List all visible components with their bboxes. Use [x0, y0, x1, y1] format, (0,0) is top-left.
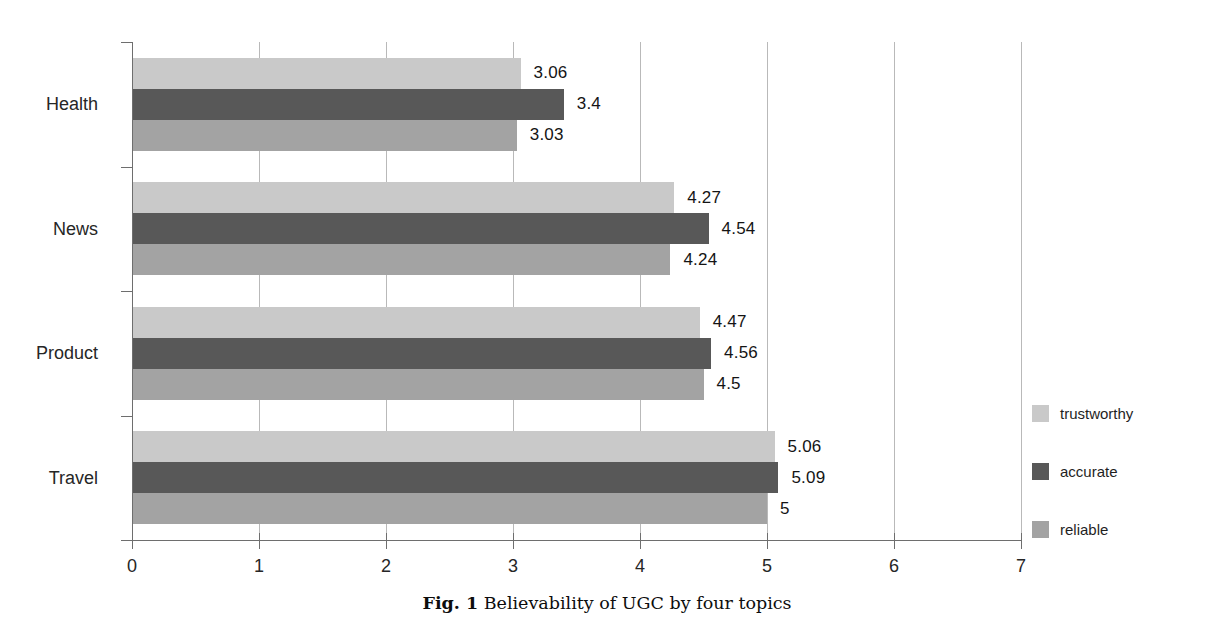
bar-row: 3.06	[132, 58, 1021, 89]
plot-area: Health3.063.43.03News4.274.544.24Product…	[132, 42, 1021, 540]
legend-item-trustworthy[interactable]: trustworthy	[1032, 404, 1207, 422]
bar-news-accurate[interactable]	[132, 213, 709, 244]
x-axis-tick-7	[1021, 533, 1022, 549]
bar-news-reliable[interactable]	[132, 244, 670, 275]
bar-row: 4.54	[132, 213, 1021, 244]
category-label-news: News	[53, 218, 98, 239]
bar-value-news-accurate: 4.54	[722, 219, 756, 239]
bar-row: 3.4	[132, 89, 1021, 120]
bar-travel-trustworthy[interactable]	[132, 431, 775, 462]
x-axis-label-3: 3	[508, 556, 518, 577]
legend-label-trustworthy: trustworthy	[1060, 405, 1133, 422]
bar-row: 4.27	[132, 182, 1021, 213]
x-axis-tick-5	[767, 533, 768, 549]
bar-group-product: Product4.474.564.5	[132, 307, 1021, 400]
bar-travel-reliable[interactable]	[132, 493, 767, 524]
bar-health-accurate[interactable]	[132, 89, 564, 120]
x-axis-label-7: 7	[1016, 556, 1026, 577]
bar-row: 5.09	[132, 462, 1021, 493]
bar-group-travel: Travel5.065.095	[132, 431, 1021, 524]
bar-product-reliable[interactable]	[132, 369, 704, 400]
x-axis-tick-3	[513, 533, 514, 549]
y-axis-tick	[121, 291, 132, 292]
x-axis-label-6: 6	[889, 556, 899, 577]
legend-swatch-trustworthy	[1032, 405, 1049, 422]
bar-value-product-trustworthy: 4.47	[713, 312, 747, 332]
bar-value-health-reliable: 3.03	[530, 125, 564, 145]
bar-health-reliable[interactable]	[132, 120, 517, 151]
bar-row: 4.5	[132, 369, 1021, 400]
x-axis-label-5: 5	[762, 556, 772, 577]
x-axis-tick-1	[259, 533, 260, 549]
bar-product-trustworthy[interactable]	[132, 307, 700, 338]
bar-row: 4.56	[132, 338, 1021, 369]
legend-label-accurate: accurate	[1060, 463, 1118, 480]
figure-container: Health3.063.43.03News4.274.544.24Product…	[0, 0, 1214, 637]
y-axis-tick	[121, 416, 132, 417]
bar-product-accurate[interactable]	[132, 338, 711, 369]
gridline-7	[1021, 42, 1022, 540]
chart-legend: trustworthyaccuratereliable	[1032, 404, 1207, 578]
bar-value-travel-trustworthy: 5.06	[788, 437, 822, 457]
y-axis-line	[132, 42, 133, 541]
legend-label-reliable: reliable	[1060, 521, 1108, 538]
x-axis-label-2: 2	[381, 556, 391, 577]
bar-value-travel-reliable: 5	[780, 499, 790, 519]
y-axis-tick	[121, 540, 132, 541]
bar-row: 5.06	[132, 431, 1021, 462]
bar-row: 3.03	[132, 120, 1021, 151]
legend-item-accurate[interactable]: accurate	[1032, 462, 1207, 480]
x-axis-tick-2	[386, 533, 387, 549]
x-axis-label-1: 1	[254, 556, 264, 577]
x-axis-line	[132, 540, 1021, 541]
figure-caption-text: Believability of UGC by four topics	[484, 593, 792, 613]
figure-number: Fig. 1	[422, 593, 478, 613]
x-axis-label-4: 4	[635, 556, 645, 577]
bar-news-trustworthy[interactable]	[132, 182, 674, 213]
bar-group-health: Health3.063.43.03	[132, 58, 1021, 151]
bar-value-health-accurate: 3.4	[577, 94, 601, 114]
bar-row: 4.47	[132, 307, 1021, 338]
bar-value-product-reliable: 4.5	[717, 374, 741, 394]
category-label-health: Health	[46, 94, 98, 115]
x-axis-tick-0	[132, 533, 133, 549]
y-axis-tick	[121, 42, 132, 43]
bar-health-trustworthy[interactable]	[132, 58, 521, 89]
bar-value-travel-accurate: 5.09	[791, 468, 825, 488]
figure-caption: Fig. 1 Believability of UGC by four topi…	[0, 593, 1214, 613]
bar-value-news-reliable: 4.24	[683, 250, 717, 270]
x-axis-tick-6	[894, 533, 895, 549]
x-axis-tick-4	[640, 533, 641, 549]
bar-row: 4.24	[132, 244, 1021, 275]
y-axis-tick	[121, 167, 132, 168]
legend-swatch-accurate	[1032, 463, 1049, 480]
bar-value-product-accurate: 4.56	[724, 343, 758, 363]
bar-value-health-trustworthy: 3.06	[534, 63, 568, 83]
bar-value-news-trustworthy: 4.27	[687, 188, 721, 208]
legend-item-reliable[interactable]: reliable	[1032, 520, 1207, 538]
bar-group-news: News4.274.544.24	[132, 182, 1021, 275]
bar-row: 5	[132, 493, 1021, 524]
bar-travel-accurate[interactable]	[132, 462, 778, 493]
legend-swatch-reliable	[1032, 521, 1049, 538]
category-label-product: Product	[36, 343, 98, 364]
x-axis-label-0: 0	[127, 556, 137, 577]
category-label-travel: Travel	[49, 467, 98, 488]
